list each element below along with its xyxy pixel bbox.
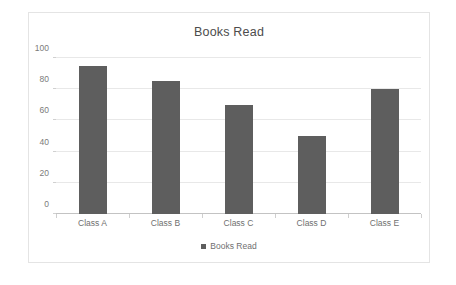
y-tick-label: 0: [44, 199, 49, 209]
x-tick-label: Class A: [56, 218, 129, 228]
x-tick-mark: [421, 214, 422, 218]
x-tick-label: Class C: [202, 218, 275, 228]
chart-frame: Books Read 020406080100 Class AClass BCl…: [28, 12, 430, 263]
bar[interactable]: [225, 105, 253, 214]
y-tick-label: 80: [40, 74, 49, 84]
bar[interactable]: [152, 81, 180, 214]
bar-slot: [129, 58, 202, 214]
x-tick-label: Class D: [275, 218, 348, 228]
x-tick-label: Class E: [348, 218, 421, 228]
bar-slot: [202, 58, 275, 214]
y-tick-label: 60: [40, 105, 49, 115]
bar[interactable]: [79, 66, 107, 214]
chart-title: Books Read: [29, 25, 429, 39]
y-tick-label: 40: [40, 137, 49, 147]
bar[interactable]: [298, 136, 326, 214]
chart-legend: Books Read: [29, 241, 429, 251]
bar-slot: [348, 58, 421, 214]
plot-area: 020406080100: [56, 58, 421, 214]
y-tick-label: 20: [40, 168, 49, 178]
bar-slot: [56, 58, 129, 214]
legend-swatch-icon: [201, 244, 206, 249]
bar-series: [56, 58, 421, 214]
bar[interactable]: [371, 89, 399, 214]
bar-slot: [275, 58, 348, 214]
x-tick-label: Class B: [129, 218, 202, 228]
legend-label: Books Read: [210, 241, 256, 251]
x-axis-labels: Class AClass BClass CClass DClass E: [56, 218, 421, 228]
y-tick-label: 100: [35, 43, 49, 53]
